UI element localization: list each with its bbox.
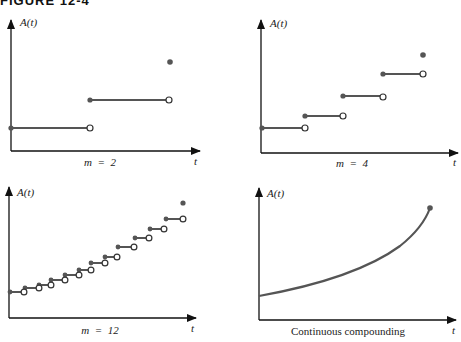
panel-continuous: A(t) t Continuous compounding xyxy=(259,187,456,337)
panel-m4: A(t) t m = 4 xyxy=(259,17,458,169)
panel-caption: Continuous compounding xyxy=(291,325,405,337)
step-series xyxy=(259,52,426,131)
growth-curve xyxy=(259,208,430,296)
figure-canvas: A(t) t m = 2 A(t) t m = 4 xyxy=(0,0,461,342)
y-axis-label: A(t) xyxy=(16,186,34,199)
step-series xyxy=(8,59,172,131)
x-axis-label: t xyxy=(194,155,198,167)
panel-caption: m = 2 xyxy=(84,156,116,168)
y-axis-label: A(t) xyxy=(19,16,37,29)
y-axis-label: A(t) xyxy=(269,17,287,30)
panel-m2: A(t) t m = 2 xyxy=(8,16,200,168)
x-axis-label: t xyxy=(452,324,456,336)
curve-endpoint xyxy=(427,205,433,211)
x-axis-label: t xyxy=(453,156,457,168)
closed-dots xyxy=(8,200,186,294)
y-axis-label: A(t) xyxy=(266,187,284,200)
panel-caption: m = 12 xyxy=(81,324,119,336)
panel-m12: A(t) t m = 12 xyxy=(8,186,196,336)
panel-caption: m = 4 xyxy=(336,157,368,169)
x-axis-label: t xyxy=(191,322,195,334)
step-series xyxy=(10,219,180,292)
